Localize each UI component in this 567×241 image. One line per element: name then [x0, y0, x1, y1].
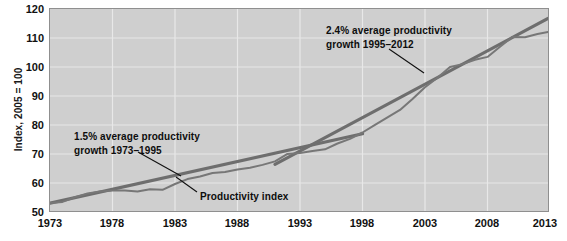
x-tick-1998: 1998: [338, 218, 386, 229]
x-tick-2008: 2008: [463, 218, 511, 229]
x-tick-1973: 1973: [26, 218, 74, 229]
annotation-series-label: Productivity index: [200, 190, 289, 204]
chart-canvas: [0, 0, 567, 241]
x-tick-2013: 2013: [521, 218, 567, 229]
x-tick-1978: 1978: [88, 218, 136, 229]
leader-line-fast-growth: [389, 49, 424, 73]
x-tick-1983: 1983: [151, 218, 199, 229]
x-tick-1988: 1988: [213, 218, 261, 229]
annotation-slow-growth: 1.5% average productivity growth 1973–19…: [74, 130, 200, 157]
series-lines: [50, 19, 548, 204]
x-tick-2003: 2003: [401, 218, 449, 229]
productivity-index-chart: Index, 2005 = 100 120 110 100 90 80 70 6…: [0, 0, 567, 241]
annotation-fast-growth: 2.4% average productivity growth 1995–20…: [326, 24, 452, 51]
x-tick-1993: 1993: [276, 218, 324, 229]
gridlines: [50, 9, 548, 211]
